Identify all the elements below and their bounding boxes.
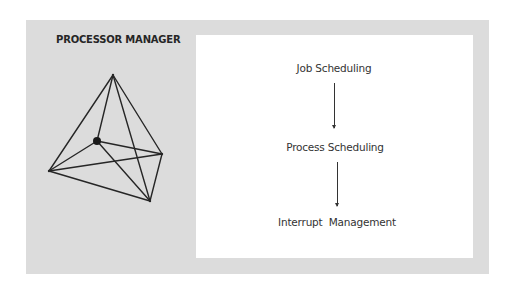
panel-title: PROCESSOR MANAGER	[56, 34, 180, 45]
step-interrupt-management: Interrupt Management	[278, 216, 396, 228]
step-job-scheduling: Job Scheduling	[297, 62, 372, 74]
step-process-scheduling: Process Scheduling	[286, 141, 384, 153]
arrow-down-icon	[337, 162, 338, 206]
arrow-down-icon	[334, 83, 335, 128]
